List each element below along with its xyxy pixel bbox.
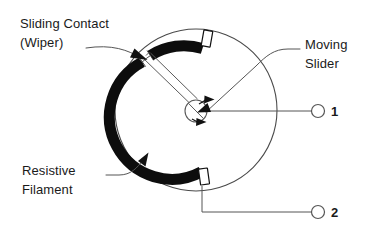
terminal-2-label: 2 bbox=[331, 205, 338, 220]
slider-arm-edge-1 bbox=[143, 58, 190, 104]
label-sliding-contact-line1: Sliding Contact bbox=[20, 16, 109, 31]
resistive-band-upper-segment bbox=[150, 46, 202, 56]
slider-arm-edge-2 bbox=[151, 53, 198, 99]
terminal-1-node[interactable] bbox=[312, 105, 325, 118]
leader-line-moving-slider bbox=[206, 49, 300, 112]
resistive-band-main-segment bbox=[109, 62, 201, 179]
terminal-1-label: 1 bbox=[331, 104, 338, 119]
label-moving-slider-line1: Moving bbox=[305, 37, 348, 52]
label-sliding-contact-line2: (Wiper) bbox=[20, 35, 63, 50]
label-moving-slider-line2: Slider bbox=[305, 56, 339, 71]
terminal-2-node[interactable] bbox=[312, 206, 325, 219]
motion-arrow-up-head bbox=[204, 96, 215, 104]
terminal-tab-bottom bbox=[198, 168, 209, 185]
terminal-tab-top bbox=[201, 30, 213, 47]
label-resistive-line1: Resistive bbox=[22, 163, 76, 178]
wire-to-terminal-2 bbox=[202, 186, 312, 212]
potentiometer-schematic: 1 2 Sliding Contact (Wiper) Resistive Fi… bbox=[0, 0, 376, 233]
potentiometer-diagram: 1 2 Sliding Contact (Wiper) Resistive Fi… bbox=[0, 0, 376, 233]
label-resistive-line2: Filament bbox=[22, 182, 73, 197]
